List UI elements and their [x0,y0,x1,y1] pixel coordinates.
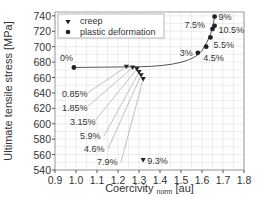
y-tick-label: 700 [33,41,51,53]
x-tick-label: 1.6 [195,174,210,186]
y-tick-label: 740 [33,10,51,22]
plastic-marker [212,23,217,28]
point-label: 5.9% [80,131,101,141]
y-tick-label: 660 [33,72,51,84]
y-tick-label: 560 [33,149,51,161]
point-label: 7.9% [97,157,118,167]
plastic-marker [212,14,217,19]
x-tick-label: 1.7 [216,174,231,186]
point-label: 9% [219,12,232,22]
point-label: 5.5% [213,40,234,50]
y-tick-label: 720 [33,25,51,37]
creep-marker [141,77,146,81]
legend-label-plastic: plastic deformation [80,27,156,37]
point-label: 7.5% [185,20,206,30]
y-tick-label: 540 [33,164,51,176]
plastic-marker [204,44,209,49]
leader-line [86,67,133,108]
leader-line [108,75,141,149]
leader-line [121,79,143,162]
point-label: 1.85% [62,103,88,113]
y-tick-label: 680 [33,56,51,68]
creep-marker [141,158,146,162]
point-label: 0.85% [62,89,88,99]
point-label: 3% [180,48,193,58]
chart: 0.91.01.11.21.31.41.51.61.71.85405605806… [0,0,265,197]
point-label: 0% [60,53,73,63]
x-axis-label: Coercivity norm [au] [105,182,194,195]
x-tick-label: 1.1 [90,174,105,186]
y-tick-label: 620 [33,102,51,114]
plastic-marker [195,50,200,55]
point-label: 3.15% [70,117,96,127]
x-tick-label: 1.0 [69,174,84,186]
point-label: 4.5% [203,53,224,63]
point-label: 10.5% [219,25,245,35]
x-tick-label: 1.8 [237,174,252,186]
point-label: 4.6% [84,144,105,154]
y-tick-label: 580 [33,133,51,145]
leader-line [104,72,139,136]
plastic-legend-icon [66,30,71,35]
y-tick-label: 600 [33,118,51,130]
y-tick-label: 640 [33,87,51,99]
y-axis-label: Ultimate tensile stress [MPa] [2,21,14,160]
point-label: 9.3% [147,156,168,166]
plastic-marker [72,65,77,70]
plastic-marker [208,35,213,40]
legend-label-creep: creep [80,16,103,26]
